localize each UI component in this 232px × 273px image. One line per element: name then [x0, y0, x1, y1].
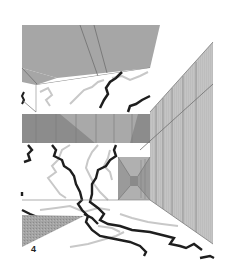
corridor-end — [118, 157, 150, 200]
back-wall-band — [22, 114, 150, 143]
shadow-triangle — [22, 215, 84, 247]
right-wall — [140, 42, 213, 244]
architectural-illustration: 4 — [0, 0, 232, 273]
illustration-canvas — [0, 0, 232, 273]
figure-number: 4 — [31, 244, 36, 254]
